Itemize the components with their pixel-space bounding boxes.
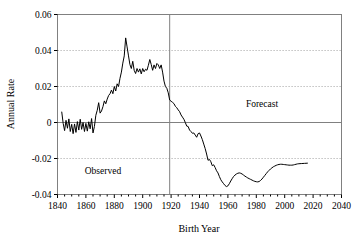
chart-figure: 1840186018801900192019401960198020002020…	[0, 0, 362, 240]
x-axis-title: Birth Year	[178, 223, 220, 234]
x-tick-label: 2040	[332, 201, 351, 211]
x-tick-label: 2020	[304, 201, 323, 211]
y-tick-label: -0.04	[32, 190, 52, 200]
y-tick-label: 0	[47, 118, 52, 128]
y-tick-label: 0.04	[35, 46, 52, 56]
x-tick-label: 1980	[247, 201, 266, 211]
annotation-observed: Observed	[85, 166, 122, 176]
x-tick-label: 2000	[275, 201, 294, 211]
x-tick-label: 1880	[105, 201, 124, 211]
x-axis-tick-labels: 1840186018801900192019401960198020002020…	[48, 201, 351, 211]
x-tick-label: 1920	[162, 201, 181, 211]
y-tick-label: -0.02	[32, 154, 52, 164]
x-tick-label: 1960	[218, 201, 237, 211]
x-tick-label: 1860	[76, 201, 95, 211]
y-tick-label: 0.02	[35, 82, 52, 92]
annual-rate-line-chart: 1840186018801900192019401960198020002020…	[0, 0, 362, 240]
x-tick-label: 1840	[48, 201, 67, 211]
y-tick-label: 0.06	[35, 10, 52, 20]
x-tick-label: 1940	[190, 201, 209, 211]
annotation-forecast: Forecast	[246, 99, 279, 109]
y-axis-title: Annual Rate	[5, 78, 16, 129]
x-tick-label: 1900	[133, 201, 152, 211]
